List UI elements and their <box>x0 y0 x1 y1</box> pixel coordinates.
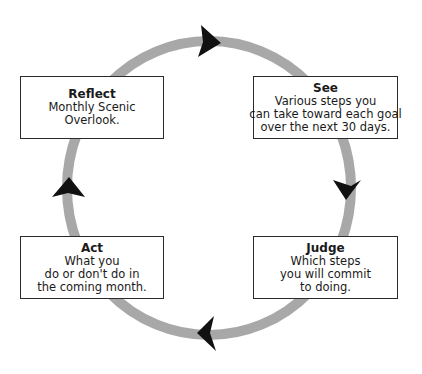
stage-text: What you <box>64 255 119 268</box>
stage-text: do or don't do in <box>45 268 140 281</box>
stage-text: Overlook. <box>64 114 119 127</box>
stage-text: you will commit <box>280 268 371 281</box>
cycle-ring <box>0 0 422 374</box>
stage-judge: Judge Which steps you will commit to doi… <box>253 236 398 299</box>
stage-title: See <box>313 82 338 95</box>
stage-see: See Various steps you can take toward ea… <box>253 76 398 139</box>
stage-text: over the next 30 days. <box>260 121 390 134</box>
stage-text: to doing. <box>300 281 351 294</box>
stage-act: Act What you do or don't do in the comin… <box>20 236 164 299</box>
stage-text: Which steps <box>291 255 361 268</box>
stage-text: can take toward each goal <box>249 108 401 121</box>
stage-text: Various steps you <box>275 95 377 108</box>
stage-reflect: Reflect Monthly Scenic Overlook. <box>20 76 164 139</box>
stage-title: Judge <box>306 242 344 255</box>
stage-title: Act <box>81 242 103 255</box>
stage-text: the coming month. <box>37 281 147 294</box>
